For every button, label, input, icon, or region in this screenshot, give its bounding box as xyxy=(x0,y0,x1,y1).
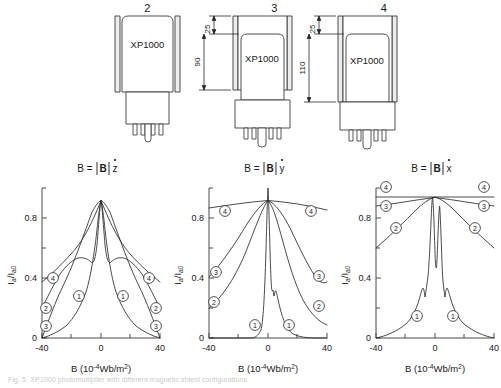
tube-diagram-3: 3 xyxy=(195,0,310,152)
svg-text:3: 3 xyxy=(317,273,321,280)
y-axis-label: Ia/Ia0 xyxy=(172,265,184,284)
curve-3 xyxy=(376,198,494,207)
svg-text:2: 2 xyxy=(394,225,398,232)
plot-bx: B = B x xyxy=(334,150,501,388)
x-tick-min: -40 xyxy=(35,343,48,353)
svg-text:1: 1 xyxy=(415,313,419,320)
curve-label-2-right: 2 xyxy=(314,301,325,312)
tube-number-label: 4 xyxy=(300,2,444,14)
dimension-value-110: 110 xyxy=(298,61,307,74)
curve-label-1-right: 1 xyxy=(284,320,295,331)
svg-text:Ia/Ia0: Ia/Ia0 xyxy=(5,265,17,284)
curve-3 xyxy=(42,201,160,339)
plot-by: B = B y xyxy=(167,150,334,388)
y-tick-08: 0.8 xyxy=(358,213,371,223)
tube-body-label: XP1000 xyxy=(350,55,384,66)
figure-caption-strip: Fig. 5. XP1000 photomultiplier with diff… xyxy=(0,374,501,388)
plot-by-svg: B = B y xyxy=(167,150,334,388)
plot-bz: B = B z xyxy=(0,150,167,388)
title-direction-hat xyxy=(448,159,450,161)
title-direction: z xyxy=(113,163,118,174)
curve-label-3-right: 3 xyxy=(479,201,490,212)
title-prefix: B = xyxy=(77,163,92,174)
curve-label-3-left: 3 xyxy=(211,267,222,278)
svg-text:1: 1 xyxy=(287,322,291,329)
svg-text:B =: B = xyxy=(244,163,259,174)
svg-text:4: 4 xyxy=(309,208,313,215)
svg-text:3: 3 xyxy=(154,323,158,330)
x-tick-max: 40 xyxy=(489,343,499,353)
x-tick-max: 40 xyxy=(155,343,165,353)
svg-text:3: 3 xyxy=(44,323,48,330)
y-tick-08: 0.8 xyxy=(191,213,204,223)
x-tick-zero: 0 xyxy=(265,343,270,353)
title-direction-hat xyxy=(114,159,116,161)
title-direction-hat xyxy=(281,159,283,161)
x-tick-zero: 0 xyxy=(432,343,437,353)
plot-title-by: B = B y xyxy=(244,159,284,175)
curve-2 xyxy=(42,201,160,309)
title-magnitude: B xyxy=(266,163,273,174)
svg-text:2: 2 xyxy=(317,303,321,310)
plots-row: B = B z xyxy=(0,150,501,388)
x-axis-label: B (10-4Wb/m2) xyxy=(238,363,298,375)
svg-text:1: 1 xyxy=(451,313,455,320)
svg-text:2: 2 xyxy=(154,305,158,312)
y-tick-04: 0.4 xyxy=(358,273,371,283)
svg-text:Ia/Ia0: Ia/Ia0 xyxy=(339,265,351,284)
x-axis-label: B (10-4Wb/m2) xyxy=(71,363,131,375)
title-magnitude: B xyxy=(433,163,440,174)
figure-caption: Fig. 5. XP1000 photomultiplier with diff… xyxy=(0,374,501,386)
y-tick-0: 0 xyxy=(199,333,204,343)
curve-label-2-right: 2 xyxy=(470,223,481,234)
svg-text:1: 1 xyxy=(121,293,125,300)
curve-label-2-left: 2 xyxy=(391,223,402,234)
figure-root: 2 xyxy=(0,0,501,388)
svg-text:2: 2 xyxy=(44,305,48,312)
curve-label-4-left: 4 xyxy=(381,182,392,193)
x-tick-zero: 0 xyxy=(98,343,103,353)
tube-2-drawing: XP1000 xyxy=(95,0,200,150)
svg-text:2: 2 xyxy=(473,225,477,232)
title-prefix: B = xyxy=(244,163,259,174)
y-tick-08: 0.8 xyxy=(24,213,37,223)
x-tick-min: -40 xyxy=(202,343,215,353)
tube-diagram-2: 2 xyxy=(95,0,200,152)
curve-label-2-left: 2 xyxy=(209,297,220,308)
title-direction: x xyxy=(447,163,452,174)
curve-label-2-left: 2 xyxy=(41,303,52,314)
curve-label-4-right: 4 xyxy=(306,206,317,217)
dimension-value-25: 25 xyxy=(308,24,317,33)
curve-4 xyxy=(42,201,160,283)
svg-text:3: 3 xyxy=(214,269,218,276)
curve-label-1-left: 1 xyxy=(412,311,423,322)
svg-text:B =: B = xyxy=(77,163,92,174)
svg-text:1: 1 xyxy=(253,322,257,329)
curve-label-4-right: 4 xyxy=(144,273,155,284)
svg-text:4: 4 xyxy=(482,184,486,191)
curve-label-3-left: 3 xyxy=(381,201,392,212)
plot-title-bz: B = B z xyxy=(77,159,117,175)
dimension-value-25: 25 xyxy=(203,24,212,33)
tube-diagram-4: 4 xyxy=(300,0,420,152)
svg-text:Ia/Ia0: Ia/Ia0 xyxy=(172,265,184,284)
y-tick-04: 0.4 xyxy=(191,273,204,283)
curve-label-1-left: 1 xyxy=(250,320,261,331)
tube-diagrams-row: 2 xyxy=(0,0,501,152)
curve-label-3-right: 3 xyxy=(314,271,325,282)
x-tick-min: -40 xyxy=(369,343,382,353)
tube-body-label: XP1000 xyxy=(131,39,165,50)
title-prefix: B = xyxy=(411,163,426,174)
curve-label-4-left: 4 xyxy=(48,273,59,284)
curve-label-1-right: 1 xyxy=(118,291,129,302)
y-tick-0: 0 xyxy=(366,333,371,343)
curve-label-4-right: 4 xyxy=(479,182,490,193)
svg-text:4: 4 xyxy=(147,275,151,282)
curve-label-4-left: 4 xyxy=(220,206,231,217)
curve-label-3-right: 3 xyxy=(151,321,162,332)
plot-bx-svg: B = B x xyxy=(334,150,501,388)
curve-label-2-right: 2 xyxy=(151,303,162,314)
svg-text:3: 3 xyxy=(482,203,486,210)
svg-text:4: 4 xyxy=(223,208,227,215)
tube-4-drawing: XP1000 25 110 xyxy=(300,0,420,150)
